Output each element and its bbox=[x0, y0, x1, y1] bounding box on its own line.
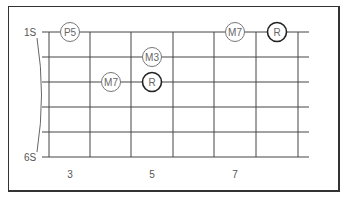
fret-numbers: 357 bbox=[67, 169, 238, 180]
note-marker: R bbox=[268, 23, 287, 42]
note-marker: R bbox=[143, 73, 162, 92]
note-label: M3 bbox=[145, 52, 159, 63]
fret-number: 3 bbox=[67, 169, 73, 180]
string-label-top: 1S bbox=[24, 27, 37, 38]
note-label: R bbox=[273, 27, 280, 38]
note-label: R bbox=[148, 77, 155, 88]
note-marker: P5 bbox=[61, 23, 80, 42]
note-marker: M7 bbox=[102, 73, 121, 92]
string-range-brace bbox=[37, 38, 42, 152]
fret-number: 5 bbox=[149, 169, 155, 180]
fretboard: 1S 6S 357 P5M7RM3M7R bbox=[0, 0, 348, 203]
string-label-bottom: 6S bbox=[24, 152, 37, 163]
note-label: M7 bbox=[104, 77, 118, 88]
note-marker: M3 bbox=[143, 48, 162, 67]
fret-number: 7 bbox=[232, 169, 238, 180]
fretboard-grid bbox=[42, 32, 309, 157]
note-label: M7 bbox=[228, 27, 242, 38]
note-marker: M7 bbox=[226, 23, 245, 42]
note-label: P5 bbox=[64, 27, 77, 38]
